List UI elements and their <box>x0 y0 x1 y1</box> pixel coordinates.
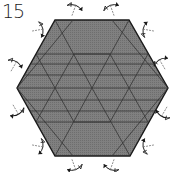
arrow-top-right-icon <box>102 2 121 19</box>
arrow-lower-right-icon <box>141 137 156 155</box>
origami-diagram <box>0 0 176 172</box>
arrow-upper-right-icon <box>141 21 156 39</box>
arrow-left-upper-icon <box>4 57 24 75</box>
arrow-left-lower-icon <box>6 101 26 119</box>
arrow-upper-left-icon <box>31 21 46 39</box>
arrow-lower-left-icon <box>31 137 46 155</box>
arrow-bottom-right-icon <box>102 157 121 172</box>
arrow-bottom-left-icon <box>64 157 83 172</box>
arrow-top-left-icon <box>64 2 83 19</box>
